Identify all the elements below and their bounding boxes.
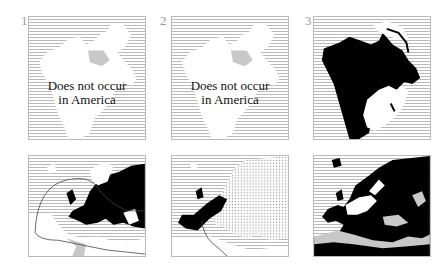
label-line-2: in America xyxy=(172,93,288,107)
panel-number-2: 2 xyxy=(160,14,167,27)
label-line-1: Does not occur xyxy=(29,79,145,93)
map-panel-america-2: Does not occur in America xyxy=(171,16,289,140)
map-panel-europe-2 xyxy=(171,155,289,257)
map-panel-europe-1 xyxy=(28,155,146,257)
europe-distribution-map-stippled xyxy=(172,156,288,256)
absence-label: Does not occur in America xyxy=(29,79,145,107)
map-panel-america-3 xyxy=(313,16,431,140)
europe-distribution-map xyxy=(314,156,430,256)
label-line-2: in America xyxy=(29,93,145,107)
absence-label: Does not occur in America xyxy=(172,79,288,107)
map-panel-europe-3 xyxy=(313,155,431,257)
map-panel-america-1: Does not occur in America xyxy=(28,16,146,140)
panel-number-3: 3 xyxy=(305,14,312,27)
north-america-distribution-map xyxy=(314,17,430,139)
label-line-1: Does not occur xyxy=(172,79,288,93)
europe-distribution-map xyxy=(29,156,145,256)
panel-number-1: 1 xyxy=(21,14,28,27)
